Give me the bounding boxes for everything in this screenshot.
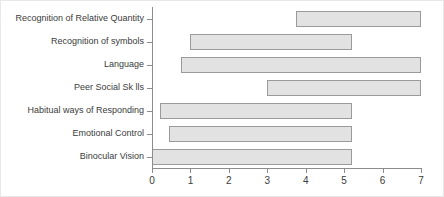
range-bar (296, 11, 421, 27)
range-bar (190, 34, 351, 50)
x-axis-tick-label: 0 (140, 175, 164, 187)
y-axis-label: Peer Social Sk lls (1, 82, 144, 92)
y-axis-line (152, 7, 153, 168)
x-axis-tick (344, 168, 345, 173)
x-axis-tick (152, 168, 153, 173)
y-axis-label: Recognition of symbols (1, 36, 144, 46)
range-bar (169, 126, 352, 142)
y-axis-label: Binocular Vision (1, 151, 144, 161)
x-axis-tick-label: 4 (294, 175, 318, 187)
x-axis-tick-label: 2 (217, 175, 241, 187)
y-axis-label: Habitual ways of Responding (1, 105, 144, 115)
x-axis-tick (190, 168, 191, 173)
range-bar (160, 103, 352, 119)
y-axis-label: Recognition of Relative Quantity (1, 13, 144, 23)
x-axis-tick (421, 168, 422, 173)
range-bar (152, 149, 352, 165)
x-axis-line (152, 168, 422, 169)
x-axis-tick (229, 168, 230, 173)
range-bar (181, 57, 421, 73)
x-axis-tick-label: 7 (409, 175, 433, 187)
range-bar (267, 80, 421, 96)
x-axis-tick (383, 168, 384, 173)
x-axis-tick (306, 168, 307, 173)
x-axis-tick-label: 3 (255, 175, 279, 187)
y-axis-label: Emotional Control (1, 128, 144, 138)
y-axis-label: Language (1, 59, 144, 69)
range-bar-chart: Recognition of Relative QuantityRecognit… (0, 0, 444, 197)
x-axis-tick-label: 6 (371, 175, 395, 187)
x-axis-tick-label: 5 (332, 175, 356, 187)
x-axis-tick-label: 1 (178, 175, 202, 187)
x-axis-tick (267, 168, 268, 173)
